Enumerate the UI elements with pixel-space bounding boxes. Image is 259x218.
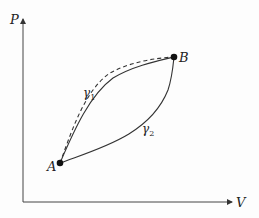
point-b-label: B bbox=[178, 50, 189, 65]
pv-diagram: P V A B γ1 γ2 bbox=[0, 0, 259, 218]
gamma1-label-sub: 1 bbox=[90, 93, 95, 102]
x-axis-label: V bbox=[236, 195, 247, 210]
gamma2-label: γ2 bbox=[142, 122, 154, 138]
point-a-label: A bbox=[46, 159, 56, 174]
gamma1-label: γ1 bbox=[83, 86, 95, 102]
y-axis-label: P bbox=[9, 12, 19, 27]
point-b bbox=[171, 54, 178, 61]
gamma2-label-sub: 2 bbox=[149, 129, 154, 138]
point-a bbox=[57, 160, 64, 167]
gamma2-path bbox=[60, 57, 174, 163]
diagram-svg: P V A B γ1 γ2 bbox=[0, 0, 259, 218]
